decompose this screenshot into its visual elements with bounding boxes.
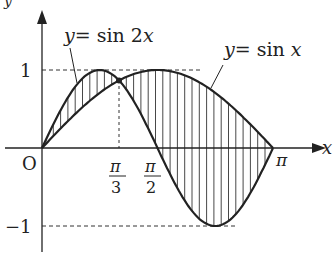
tick-pi2-numerator: π [144,157,156,176]
tick-pi: π [275,150,288,170]
origin-label: O [22,153,37,174]
y-axis-label: y [3,0,13,9]
tick-label-neg1: −1 [5,216,32,237]
intersection-point [116,78,122,84]
tick-pi3-numerator: π [109,157,121,176]
sin2x-leader [70,48,77,83]
sinx-leader [211,65,223,88]
sinx-label: y= sin x [223,38,302,60]
tick-label-1: 1 [20,60,31,81]
tick-pi2-denominator: 2 [146,178,156,197]
y-axis-arrow-icon [37,10,47,24]
x-axis-label: x [322,137,332,158]
graph: y= sin 2x y= sin x 1 −1 O π 3 π 2 π x y [0,0,334,255]
sin2x-label: y= sin 2x [63,24,154,46]
tick-pi3-denominator: 3 [111,178,121,197]
